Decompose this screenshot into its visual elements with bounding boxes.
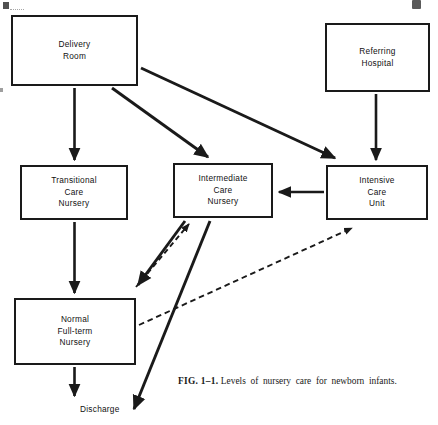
edge-normal-to-intermediate-return [136, 224, 189, 287]
node-referring-hospital-line-2: Hospital [362, 58, 394, 70]
edge-delivery-to-intensive [141, 68, 335, 158]
node-intensive-care-unit-line-2: Care [368, 187, 387, 199]
node-referring-hospital[interactable]: Referring Hospital [325, 23, 430, 92]
node-intermediate-care-nursery-line-3: Nursery [208, 196, 239, 208]
figure-page: Delivery Room Referring Hospital Transit… [0, 0, 438, 425]
node-normal-full-term-nursery[interactable]: Normal Full-term Nursery [14, 298, 136, 365]
node-intermediate-care-nursery-line-2: Care [214, 185, 233, 197]
node-intensive-care-unit-line-1: Intensive [359, 175, 394, 187]
node-transitional-care-nursery-line-2: Care [65, 187, 84, 199]
node-delivery-room[interactable]: Delivery Room [11, 15, 138, 86]
edge-intermediate-to-normal [138, 221, 185, 285]
node-normal-full-term-nursery-line-1: Normal [61, 314, 89, 326]
figure-caption-label: FIG. 1–1. [178, 376, 218, 386]
node-normal-full-term-nursery-line-2: Full-term [58, 326, 93, 338]
node-intermediate-care-nursery-line-1: Intermediate [198, 173, 247, 185]
scan-artifact-left-edge [0, 88, 3, 92]
node-intermediate-care-nursery[interactable]: Intermediate Care Nursery [173, 163, 273, 218]
node-transitional-care-nursery[interactable]: Transitional Care Nursery [20, 165, 128, 220]
node-transitional-care-nursery-line-3: Nursery [59, 198, 90, 210]
node-delivery-room-line-1: Delivery [59, 39, 91, 51]
figure-caption-text: Levels of nursery care for newborn infan… [221, 376, 397, 386]
node-transitional-care-nursery-line-1: Transitional [51, 175, 97, 187]
node-normal-full-term-nursery-line-3: Nursery [60, 337, 91, 349]
node-delivery-room-line-2: Room [63, 51, 86, 63]
node-intensive-care-unit-line-3: Unit [369, 198, 385, 210]
node-referring-hospital-line-1: Referring [359, 46, 395, 58]
scan-artifact-top-left [3, 2, 9, 9]
node-intensive-care-unit[interactable]: Intensive Care Unit [326, 165, 428, 220]
edge-delivery-to-intermediate [112, 88, 208, 157]
figure-caption: FIG. 1–1. Levels of nursery care for new… [178, 375, 430, 388]
scan-artifact-top-left-specks [10, 9, 24, 15]
scan-artifact-top-right [412, 0, 421, 9]
label-discharge: Discharge [80, 404, 120, 414]
